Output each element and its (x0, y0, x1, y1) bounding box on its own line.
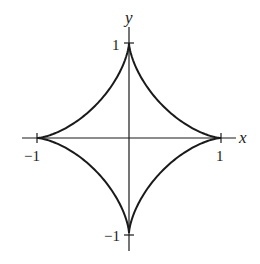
x-tick-label-pos: 1 (216, 148, 224, 164)
y-tick-label-neg: −1 (104, 228, 120, 244)
x-axis-label: x (238, 128, 247, 147)
y-axis-label: y (123, 8, 133, 27)
astroid-figure: y x 1 1 −1 −1 (0, 0, 260, 264)
y-tick-label-pos: 1 (112, 37, 120, 53)
x-tick-label-neg: −1 (24, 148, 40, 164)
